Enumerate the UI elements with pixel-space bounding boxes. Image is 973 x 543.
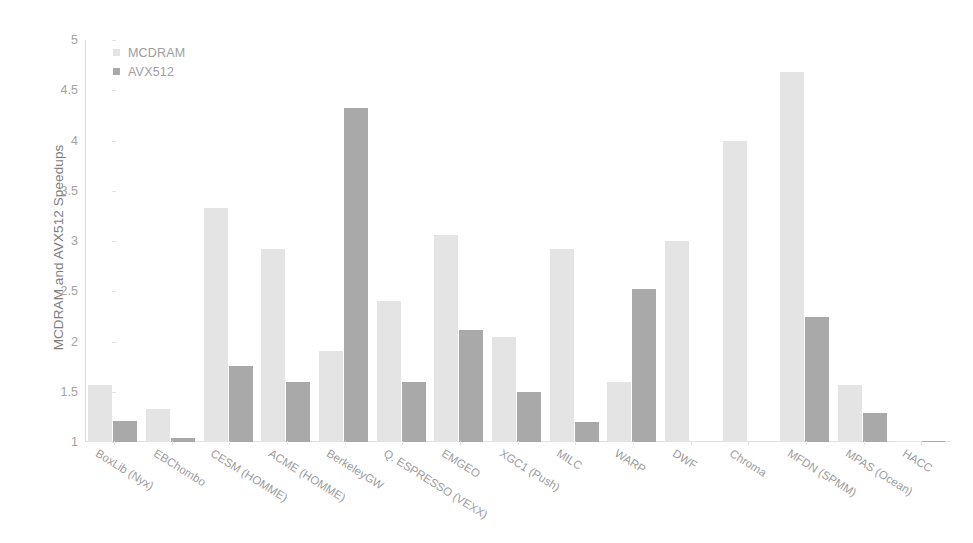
- legend-swatch-icon: [113, 49, 120, 56]
- x-axis-tick-label: DWF: [670, 447, 699, 471]
- x-axis-tick-label: BoxLib (Nyx): [93, 447, 155, 492]
- bar-group: [434, 40, 483, 442]
- bar-mcdram: [607, 382, 631, 442]
- bar-avx512: [171, 438, 195, 442]
- legend-item[interactable]: MCDRAM: [113, 44, 185, 61]
- bar-group: [204, 40, 253, 442]
- bar-mcdram: [88, 385, 112, 442]
- legend-swatch-icon: [113, 68, 120, 75]
- bar-group: [319, 40, 368, 442]
- x-axis-tick-label: MILC: [555, 447, 585, 472]
- x-axis-tick-label: WARP: [612, 447, 647, 475]
- bar-group: [665, 40, 714, 442]
- x-axis-tick-label: EBChombo: [151, 447, 207, 488]
- x-axis-tick-label: Q. ESPRESSO (VEXX): [382, 447, 490, 521]
- bar-group: [88, 40, 137, 442]
- bar-avx512: [517, 392, 541, 442]
- x-axis-tick-mark: [172, 441, 173, 445]
- bar-group: [723, 40, 772, 442]
- bar-mcdram: [896, 441, 920, 442]
- bar-mcdram: [204, 208, 228, 442]
- legend-item[interactable]: AVX512: [113, 63, 185, 80]
- bar-mcdram: [434, 235, 458, 442]
- y-axis-tick-label: 3: [38, 234, 78, 248]
- chart-legend: MCDRAMAVX512: [113, 44, 185, 82]
- x-axis-tick-mark: [229, 441, 230, 445]
- x-axis-tick-mark: [633, 441, 634, 445]
- x-axis-tick-label: EMGEO: [439, 447, 482, 480]
- bar-avx512: [921, 441, 945, 442]
- x-axis-tick-mark: [575, 441, 576, 445]
- bar-mcdram: [838, 385, 862, 442]
- bar-mcdram: [550, 249, 574, 442]
- x-axis-tick-mark: [748, 441, 749, 445]
- bar-group: [146, 40, 195, 442]
- x-axis-tick-mark: [921, 441, 922, 445]
- bar-mcdram: [261, 249, 285, 442]
- y-axis-tick-label: 3.5: [38, 184, 78, 198]
- bar-mcdram: [319, 351, 343, 442]
- x-axis-tick-mark: [518, 441, 519, 445]
- x-axis-tick-mark: [114, 441, 115, 445]
- y-axis-tick-label: 2: [38, 335, 78, 349]
- y-axis-tick-label: 1.5: [38, 385, 78, 399]
- y-axis-tick-label: 2.5: [38, 284, 78, 298]
- bar-avx512: [113, 421, 137, 442]
- bar-group: [550, 40, 599, 442]
- bar-avx512: [575, 422, 599, 442]
- bar-group: [607, 40, 656, 442]
- bar-avx512: [402, 382, 426, 442]
- y-axis-tick-label: 4: [38, 134, 78, 148]
- bar-mcdram: [723, 141, 747, 443]
- bar-group: [896, 40, 945, 442]
- legend-item-label: MCDRAM: [128, 46, 185, 60]
- bar-group: [261, 40, 310, 442]
- plot-area: [85, 40, 950, 442]
- y-axis-tick-label: 4.5: [38, 83, 78, 97]
- x-axis-tick-mark: [287, 441, 288, 445]
- bar-avx512: [632, 289, 656, 442]
- y-axis-tick-labels: 11.522.533.544.55: [30, 0, 78, 543]
- bar-mcdram: [146, 409, 170, 442]
- bar-group: [492, 40, 541, 442]
- bar-mcdram: [665, 241, 689, 442]
- y-axis-tick-label: 5: [38, 33, 78, 47]
- x-axis-tick-label: Chroma: [728, 447, 769, 479]
- x-axis-tick-label: XGC1 (Push): [497, 447, 561, 493]
- bar-avx512: [805, 317, 829, 442]
- bar-avx512: [863, 413, 887, 442]
- bar-mcdram: [780, 72, 804, 442]
- bar-avx512: [229, 366, 253, 442]
- bar-avx512: [286, 382, 310, 442]
- bar-mcdram: [377, 301, 401, 442]
- bar-group: [838, 40, 887, 442]
- x-axis-tick-mark: [806, 441, 807, 445]
- legend-item-label: AVX512: [128, 65, 174, 79]
- x-axis-tick-mark: [864, 441, 865, 445]
- bar-mcdram: [492, 337, 516, 442]
- y-axis-tick-label: 1: [38, 435, 78, 449]
- x-axis-tick-label: HACC: [901, 447, 935, 474]
- speedup-bar-chart: MCDRAM and AVX512 Speedups 11.522.533.54…: [0, 0, 973, 543]
- x-axis-tick-mark: [402, 441, 403, 445]
- bar-avx512: [459, 330, 483, 442]
- bar-group: [377, 40, 426, 442]
- bar-group: [780, 40, 829, 442]
- x-axis-tick-mark: [460, 441, 461, 445]
- x-axis-tick-mark: [691, 441, 692, 445]
- bar-avx512: [344, 108, 368, 442]
- x-axis-tick-mark: [345, 441, 346, 445]
